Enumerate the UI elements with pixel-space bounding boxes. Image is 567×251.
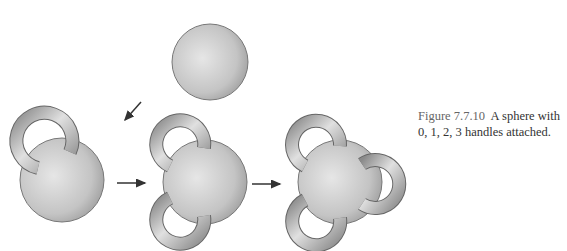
arrow-diagonal-icon [125,102,141,120]
sphere-2-handles [156,120,247,243]
figure-label: Figure 7.7.10 [418,109,485,123]
sphere-3-handles [292,121,399,246]
figure-caption: Figure 7.7.10 A sphere with 0, 1, 2, 3 h… [418,108,567,140]
sphere-0-handles [172,24,248,100]
sphere-1-handle [16,113,104,222]
